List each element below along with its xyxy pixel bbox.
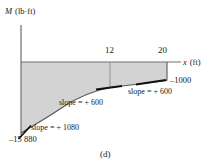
figure-caption: (d) <box>100 150 111 159</box>
moment-value-end: –1000 <box>170 76 191 85</box>
x-axis-label: x(ft) <box>183 58 201 67</box>
slope-label-end: slope = + 600 <box>128 88 172 96</box>
y-axis-label: M(lb·ft) <box>5 7 35 16</box>
x-tick-label-12: 12 <box>105 46 114 55</box>
moment-value-start: –15 880 <box>9 135 37 144</box>
y-axis-units-label: (lb·ft) <box>15 6 35 16</box>
x-axis-symbol: x <box>183 57 187 67</box>
x-axis-units-label: (ft) <box>190 57 201 67</box>
slope-label-start: slope = + 1080 <box>31 124 79 132</box>
slope-label-mid: slope = + 600 <box>59 99 103 107</box>
y-axis-symbol: M <box>5 6 12 16</box>
x-tick-label-20: 20 <box>158 46 167 55</box>
